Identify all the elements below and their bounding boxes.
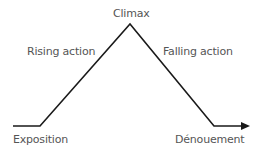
plot-diagram: Climax Rising action Falling action Expo… [0,0,260,153]
denouement-label: Dénouement [175,134,244,145]
plot-line [13,24,243,126]
arrow-head-icon [241,122,250,130]
falling-action-label: Falling action [163,46,233,57]
climax-label: Climax [113,8,150,19]
exposition-label: Exposition [13,134,68,145]
rising-action-label: Rising action [27,46,95,57]
plot-line-graphic [0,0,260,153]
